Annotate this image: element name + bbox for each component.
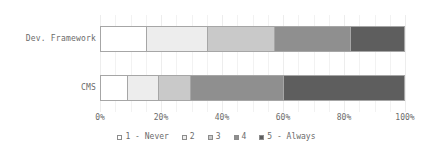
y-axis-category-labels: Dev. Framework CMS xyxy=(0,15,96,112)
bar-segment xyxy=(100,75,127,101)
x-axis-tick-label: 40% xyxy=(215,113,229,122)
y-axis-label-cms: CMS xyxy=(2,83,96,92)
legend-swatch-icon xyxy=(117,135,122,140)
legend-swatch-icon xyxy=(234,135,239,140)
plot-area xyxy=(100,15,405,112)
bar-segment xyxy=(274,26,350,52)
legend-swatch-icon xyxy=(208,135,213,140)
bar-segment xyxy=(146,26,207,52)
bar-segment xyxy=(207,26,274,52)
legend-item[interactable]: 4 xyxy=(234,133,247,141)
legend-label: 1 - Never xyxy=(125,133,168,141)
legend-item[interactable]: 2 xyxy=(182,133,195,141)
bar-dev-framework xyxy=(100,26,405,52)
x-axis-tick-label: 80% xyxy=(337,113,351,122)
legend-item[interactable]: 1 - Never xyxy=(117,133,168,141)
bar-segment xyxy=(127,75,158,101)
legend-label: 2 xyxy=(190,133,195,141)
legend-item[interactable]: 5 - Always xyxy=(259,133,315,141)
legend-swatch-icon xyxy=(259,135,264,140)
legend-label: 5 - Always xyxy=(267,133,315,141)
x-axis-tick-label: 20% xyxy=(154,113,168,122)
x-axis-tick-label: 100% xyxy=(395,113,414,122)
stacked-bar-chart: Dev. Framework CMS 0%20%40%60%80%100% 1 … xyxy=(0,0,433,162)
legend-swatch-icon xyxy=(182,135,187,140)
x-axis-tick-label: 60% xyxy=(276,113,290,122)
chart-legend: 1 - Never2345 - Always xyxy=(0,133,433,141)
legend-label: 4 xyxy=(242,133,247,141)
bar-cms xyxy=(100,75,405,101)
bar-segment xyxy=(350,26,405,52)
bar-segment xyxy=(158,75,190,101)
y-axis-label-dev-framework: Dev. Framework xyxy=(2,34,96,43)
legend-item[interactable]: 3 xyxy=(208,133,221,141)
bar-segment xyxy=(100,26,146,52)
legend-label: 3 xyxy=(216,133,221,141)
bar-segment xyxy=(190,75,283,101)
gridline xyxy=(405,15,406,112)
x-axis-tick-label: 0% xyxy=(95,113,105,122)
x-axis-ticks: 0%20%40%60%80%100% xyxy=(100,113,405,127)
bar-segment xyxy=(283,75,405,101)
